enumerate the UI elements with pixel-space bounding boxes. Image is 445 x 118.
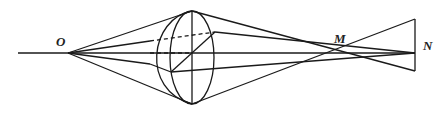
ray-o-bottom [68,53,192,104]
lens-lower-link [150,64,171,72]
lens-diagonal [171,32,215,72]
label-o: O [56,34,65,50]
hidden-line-upper [150,32,215,41]
label-n: N [423,38,432,54]
ray-upper-to-n [215,32,415,53]
label-m: M [334,31,346,47]
ray-lower-to-n [171,53,415,72]
ray-o-upper [68,41,150,53]
ray-diagram [0,0,445,118]
